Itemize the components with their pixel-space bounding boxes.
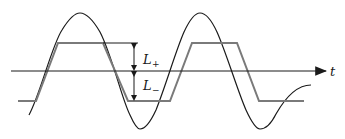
svg-text:L: L — [142, 52, 152, 67]
lower-limit-label: L − — [142, 78, 160, 95]
limiter-waveform-diagram: t L + L − — [0, 0, 345, 139]
time-axis-label: t — [330, 64, 336, 79]
svg-text:+: + — [152, 59, 160, 69]
svg-text:−: − — [152, 85, 160, 95]
svg-text:L: L — [142, 78, 152, 93]
clipped-output-wave — [18, 43, 304, 101]
upper-limit-label: L + — [142, 52, 160, 69]
